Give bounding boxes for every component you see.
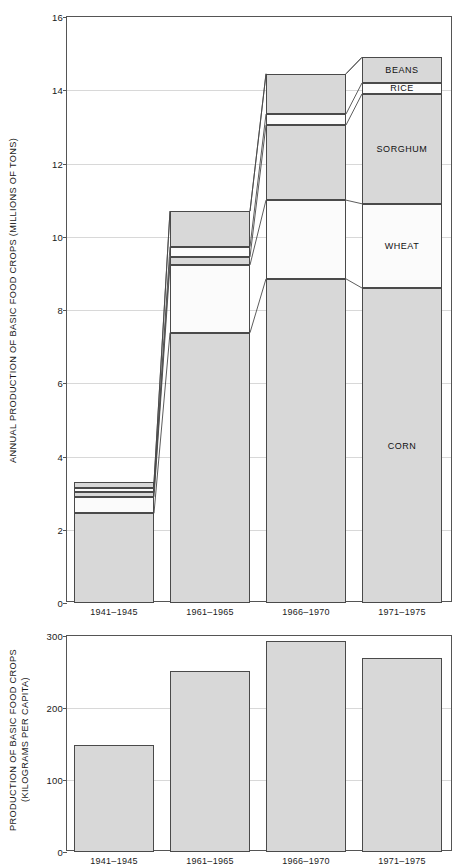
y-axis-tick-mark [63, 636, 67, 637]
y-axis-tick-mark [63, 603, 67, 604]
bar-segment-corn: CORN [362, 288, 442, 603]
segment-label: RICE [390, 83, 414, 93]
bar-segment-rice [170, 247, 250, 257]
y-axis-tick-mark [63, 17, 67, 18]
bar-segment-wheat [266, 200, 346, 279]
y-axis-title-bottom: PRODUCTION OF BASIC FOOD CROPS (KILOGRAM… [8, 640, 34, 840]
x-axis-tick-label: 1971–1975 [378, 607, 426, 617]
x-axis-tick-label: 1966–1970 [282, 607, 330, 617]
figure-root: ANNUAL PRODUCTION OF BASIC FOOD CROPS (M… [0, 0, 458, 866]
x-axis-tick-label: 1961–1965 [186, 856, 234, 866]
bar-segment-rice [74, 488, 154, 493]
bar-segment-sorghum [266, 125, 346, 200]
bar-1961-1965 [170, 671, 250, 852]
y-axis-tick-mark [63, 237, 67, 238]
stacked-bar: CORNWHEATSORGHUMRICEBEANS [362, 17, 442, 603]
x-axis-tick-label: 1941–1945 [90, 856, 138, 866]
bar-segment-wheat [74, 497, 154, 513]
bar-1966-1970 [266, 641, 346, 852]
y-axis-tick-label: 14 [52, 85, 63, 96]
bar-segment-sorghum [170, 257, 250, 265]
segment-label: BEANS [385, 65, 418, 75]
plot-area-bottom: 01002003001941–19451961–19651966–1970197… [66, 635, 452, 851]
bar-segment-corn [170, 333, 250, 603]
x-axis-tick-label: 1941–1945 [90, 607, 138, 617]
x-axis-tick-label: 1971–1975 [378, 856, 426, 866]
y-axis-tick-label: 12 [52, 158, 63, 169]
bar-segment-beans: BEANS [362, 57, 442, 83]
stacked-bar [170, 17, 250, 603]
y-axis-title-top: ANNUAL PRODUCTION OF BASIC FOOD CROPS (M… [8, 40, 20, 560]
y-axis-tick-mark [63, 708, 67, 709]
bar-segment-rice: RICE [362, 83, 442, 94]
segment-label: SORGHUM [377, 144, 428, 154]
y-axis-tick-mark [63, 383, 67, 384]
bar-1941-1945 [74, 745, 154, 852]
bar-segment-corn [266, 279, 346, 603]
bar-1971-1975 [362, 658, 442, 852]
per-capita-production-chart: PRODUCTION OF BASIC FOOD CROPS (KILOGRAM… [0, 620, 458, 866]
segment-label: WHEAT [385, 241, 420, 251]
stacked-bar [266, 17, 346, 603]
y-axis-tick-label: 200 [47, 703, 63, 714]
stacked-bar [74, 17, 154, 603]
segment-label: CORN [388, 441, 417, 451]
bar-segment-beans [266, 74, 346, 114]
bar-segment-beans [74, 482, 154, 487]
bar-segment-rice [266, 114, 346, 125]
y-axis-tick-mark [63, 310, 67, 311]
bar-segment-beans [170, 211, 250, 247]
y-axis-tick-label: 100 [47, 775, 63, 786]
y-axis-tick-label: 10 [52, 231, 63, 242]
y-axis-tick-label: 300 [47, 631, 63, 642]
bar-segment-wheat: WHEAT [362, 204, 442, 288]
y-axis-tick-mark [63, 852, 67, 853]
y-axis-tick-mark [63, 90, 67, 91]
plot-area-top: 0246810121416CORNWHEATSORGHUMRICEBEANS19… [66, 16, 452, 602]
bar-segment-sorghum: SORGHUM [362, 94, 442, 204]
y-axis-tick-mark [63, 780, 67, 781]
bar-segment-wheat [170, 265, 250, 333]
y-axis-tick-label: 16 [52, 12, 63, 23]
annual-production-chart: ANNUAL PRODUCTION OF BASIC FOOD CROPS (M… [0, 0, 458, 620]
y-axis-tick-mark [63, 457, 67, 458]
y-axis-tick-mark [63, 164, 67, 165]
bar-segment-corn [74, 513, 154, 603]
x-axis-tick-label: 1966–1970 [282, 856, 330, 866]
x-axis-tick-label: 1961–1965 [186, 607, 234, 617]
y-axis-tick-mark [63, 530, 67, 531]
bar-segment-sorghum [74, 492, 154, 496]
